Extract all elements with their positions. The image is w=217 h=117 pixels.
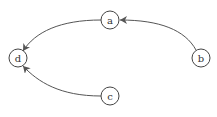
node-c: c	[101, 87, 119, 105]
graph-canvas: a b c d	[0, 0, 217, 117]
node-c-label: c	[107, 91, 113, 102]
node-b-label: b	[198, 53, 204, 64]
edge-a-to-d	[23, 20, 101, 51]
node-b: b	[192, 49, 210, 67]
node-a: a	[101, 11, 119, 29]
node-d-label: d	[15, 53, 22, 64]
edge-b-to-a	[120, 20, 196, 50]
node-a-label: a	[107, 15, 113, 26]
edge-c-to-d	[23, 66, 101, 96]
node-d: d	[9, 49, 27, 67]
